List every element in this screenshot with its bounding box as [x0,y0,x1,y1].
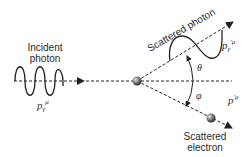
phi-arc [186,81,193,106]
theta-label: θ [197,62,202,73]
theta-arc [187,56,193,81]
incident-momentum-label: pγμ [36,98,49,113]
scattered-electron-line [137,81,232,128]
phi-label: φ [196,90,202,101]
incident-photon-label-line1: Incident [27,42,62,53]
incident-photon-label-line2: photon [30,53,61,64]
scattered-electron-label-line2: electron [187,142,223,153]
scattered-electron-sphere [207,114,216,123]
scattered-photon-momentum-label: pγ′μ [221,38,236,53]
scattered-photon-label: Scattered photon [146,6,217,54]
scattered-electron-label-line1: Scattered [184,131,227,142]
scattered-electron-momentum-label: p′μ [227,93,239,106]
compton-scattering-diagram: Incident photon pγμ Scattered photon pγ′… [0,0,249,157]
target-electron-sphere [133,77,142,86]
